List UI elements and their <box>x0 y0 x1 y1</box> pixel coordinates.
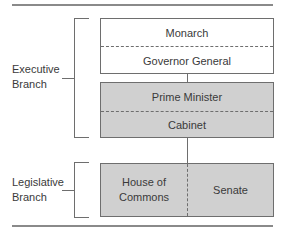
legislative-label-line1: Legislative <box>12 175 64 190</box>
executive-branch-label: Executive Branch <box>12 62 60 92</box>
legislative-label-line2: Branch <box>12 190 64 205</box>
house-of-commons-line1: House of <box>122 175 166 190</box>
crown-box: Monarch Governor General <box>100 18 274 74</box>
connector-government-parliament <box>187 138 188 163</box>
house-of-commons-cell: House of Commons <box>101 164 187 216</box>
governor-general-cell: Governor General <box>101 47 273 74</box>
legislative-branch-label: Legislative Branch <box>12 175 64 205</box>
prime-minister-cell: Prime Minister <box>101 83 273 111</box>
cabinet-cell: Cabinet <box>101 112 273 138</box>
house-of-commons-line2: Commons <box>119 190 169 205</box>
senate-cell: Senate <box>188 164 273 216</box>
connector-crown-government <box>187 74 188 82</box>
bottom-rule <box>12 225 273 227</box>
executive-label-line2: Branch <box>12 77 60 92</box>
top-rule <box>12 4 273 6</box>
executive-label-line1: Executive <box>12 62 60 77</box>
monarch-cell: Monarch <box>101 19 273 46</box>
government-box: Prime Minister Cabinet <box>100 82 274 138</box>
parliament-box: House of Commons Senate <box>100 163 274 217</box>
